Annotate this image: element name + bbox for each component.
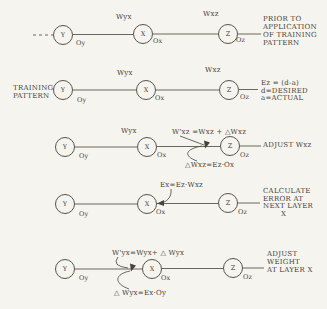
output-label-ox: Ox <box>153 37 163 45</box>
output-label-oz: Oz <box>238 208 247 216</box>
node-x-label: X <box>150 265 155 273</box>
node-z-label: Z <box>226 30 231 38</box>
caption-line: ADJUST Wxz <box>263 141 311 149</box>
arrow-curve-deltawyx-to-line <box>118 271 130 289</box>
node-y: Y <box>55 259 75 279</box>
output-label-oy: Oy <box>79 152 89 160</box>
node-x: X <box>137 194 157 214</box>
caption-line: PRIOR TO <box>263 15 301 23</box>
caption-line: CALCULATE <box>263 187 311 195</box>
node-y-label: Y <box>63 200 67 208</box>
node-y: Y <box>53 80 73 100</box>
caption-line: Ez = (d-a) <box>261 79 299 87</box>
node-x-label: X <box>145 143 150 151</box>
arrow-curve-wyx-formula-to-line <box>116 257 128 268</box>
caption-line: PATTERN <box>263 39 299 47</box>
arrowhead-row4 <box>157 200 164 206</box>
arrow-curve-deltawxz-to-line <box>188 146 202 161</box>
node-y-label: Y <box>61 31 65 39</box>
caption-line: APPLICATION <box>263 23 317 31</box>
output-label-ox: Ox <box>155 94 165 102</box>
node-y: Y <box>55 137 75 157</box>
tick-arrowhead-row3 <box>204 141 210 149</box>
formula-ex: Ex=Ez·Wxz <box>160 181 203 189</box>
node-z: Z <box>219 80 239 100</box>
node-y-label: Y <box>63 265 67 273</box>
output-label-oy: Oy <box>77 96 87 104</box>
node-x: X <box>136 80 156 100</box>
node-x: X <box>137 137 157 157</box>
output-label-oy: Oy <box>76 39 86 47</box>
weight-label-wxz: Wxz <box>205 66 221 74</box>
node-z-label: Z <box>231 264 236 272</box>
weight-label-wyx: Wyx <box>117 69 133 77</box>
left-label-line: PATTERN <box>13 92 49 100</box>
caption-line: X <box>281 210 286 218</box>
output-label-oy: Oy <box>79 210 89 218</box>
node-x: X <box>142 259 162 279</box>
node-z-label: Z <box>227 86 232 94</box>
arrow-curve-wxz-formula-to-line <box>180 136 204 145</box>
node-z: Z <box>223 258 243 278</box>
node-x-label: X <box>144 86 149 94</box>
left-label-line: TRAINING <box>13 84 53 92</box>
caption-line: AT LAYER X <box>267 266 313 274</box>
weight-label-wyx: Wyx <box>121 127 137 135</box>
caption-line: ADJUST <box>267 250 297 258</box>
node-y-label: Y <box>61 86 65 94</box>
caption-line: OF TRAINING <box>263 31 317 39</box>
output-label-oy: Oy <box>79 274 89 282</box>
caption-line: a=ACTUAL <box>261 94 304 102</box>
node-z: Z <box>218 24 238 44</box>
node-z-label: Z <box>226 199 231 207</box>
node-x: X <box>133 24 153 44</box>
formula-delta-wyx: △ Wyx=Ex·Oy <box>114 289 166 297</box>
formula-new-wyx: W'yx=Wyx+ △ Wyx <box>112 249 184 257</box>
node-z: Z <box>220 136 240 156</box>
caption-line: WEIGHT <box>267 258 300 266</box>
node-x-label: X <box>141 30 146 38</box>
backprop-training-diagram: Y X Z Wyx Wxz Oy Ox Oz PRIOR TO APPLICAT… <box>0 0 327 309</box>
node-x-label: X <box>145 200 150 208</box>
node-z: Z <box>218 193 238 213</box>
node-y: Y <box>53 25 73 45</box>
formula-new-wxz: W'xz =Wxz + △Wxz <box>172 128 246 136</box>
node-y: Y <box>55 194 75 214</box>
caption-line: NEXT LAYER <box>263 202 313 210</box>
output-label-oz: Oz <box>240 151 249 159</box>
output-label-oz: Oz <box>240 93 249 101</box>
output-label-ox: Ox <box>157 151 167 159</box>
weight-label-wyx: Wyx <box>116 13 132 21</box>
weight-label-wxz: Wxz <box>203 10 219 18</box>
output-label-ox: Ox <box>161 274 171 282</box>
output-label-oz: Oz <box>236 36 245 44</box>
tick-arrowhead-row5 <box>130 264 136 272</box>
formula-delta-wxz: △Wxz=Ez·Ox <box>185 161 234 169</box>
output-label-oz: Oz <box>243 273 252 281</box>
output-label-ox: Ox <box>156 208 166 216</box>
node-y-label: Y <box>63 143 67 151</box>
node-z-label: Z <box>228 142 233 150</box>
